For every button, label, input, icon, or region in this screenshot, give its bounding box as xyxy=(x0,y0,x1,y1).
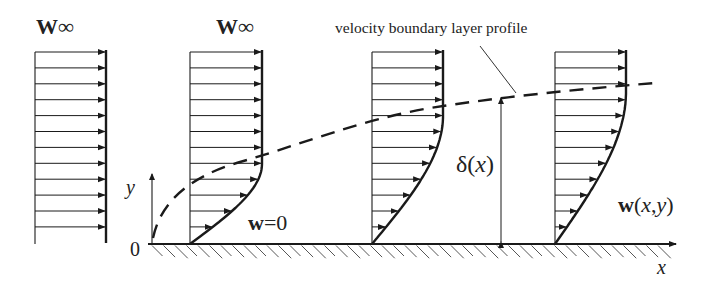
uniform-inlet-profile xyxy=(35,50,106,244)
wall-condition-label: w=0 xyxy=(248,210,287,235)
velocity-profile-3 xyxy=(555,50,626,244)
velocity-field-label: w(x,y) xyxy=(618,192,674,217)
boundary-layer-label: velocity boundary layer profile xyxy=(335,19,528,36)
origin-label: 0 xyxy=(130,238,140,260)
x-axis-label: x xyxy=(656,256,666,278)
label-leader-line xyxy=(480,46,516,93)
velocity-profile-2 xyxy=(372,50,443,244)
boundary-layer-diagram: W∞ W∞ velocity boundary layer profile y … xyxy=(0,0,719,286)
free-stream-label-2: W∞ xyxy=(216,14,254,39)
wall xyxy=(148,244,676,258)
y-axis-label: y xyxy=(124,176,135,199)
wall-hatching xyxy=(152,246,671,259)
free-stream-label-1: W∞ xyxy=(36,14,74,39)
thickness-label: δ(x) xyxy=(456,151,494,177)
